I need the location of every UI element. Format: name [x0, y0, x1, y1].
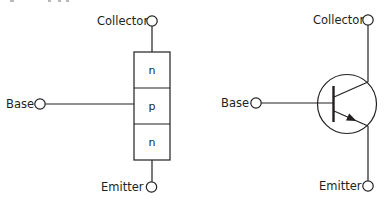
left-base-terminal-icon [35, 99, 45, 109]
cropped-caption-remnant [10, 0, 69, 2]
right-emitter-label: Emitter [319, 179, 362, 193]
right-collector-terminal-icon [363, 15, 373, 25]
collector-diagonal [334, 82, 368, 97]
transistor-diagram: Collector n p n Base Emitter Collector B… [0, 0, 388, 202]
layer-n-collector: n [149, 64, 156, 77]
right-collector-label: Collector [313, 13, 364, 27]
layer-n-emitter: n [149, 136, 156, 149]
right-base-terminal-icon [251, 98, 261, 108]
left-emitter-terminal-icon [146, 182, 156, 192]
right-base-label: Base [221, 96, 249, 110]
emitter-arrow-icon [346, 114, 357, 121]
npn-transistor-symbol: Collector Base Emitter [221, 13, 377, 193]
npn-layer-structure: Collector n p n Base Emitter [6, 14, 170, 194]
left-emitter-label: Emitter [101, 180, 144, 194]
left-collector-label: Collector [97, 14, 148, 28]
left-base-label: Base [6, 97, 34, 111]
right-emitter-terminal-icon [363, 181, 373, 191]
left-collector-terminal-icon [147, 16, 157, 26]
transistor-envelope-icon [318, 75, 377, 134]
layer-p-base: p [149, 100, 156, 113]
